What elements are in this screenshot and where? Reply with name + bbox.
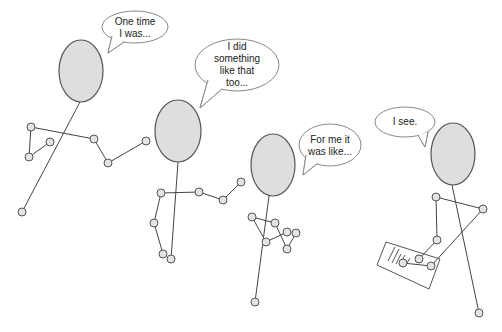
speech-bubble-text: I did something like that too... — [197, 41, 277, 89]
head — [155, 100, 201, 162]
head — [431, 123, 475, 185]
joint — [150, 219, 158, 227]
joint — [251, 298, 259, 306]
body-line — [255, 196, 269, 302]
joint — [433, 236, 441, 244]
joint — [159, 250, 167, 258]
joint — [271, 219, 279, 227]
joint — [475, 309, 483, 317]
head — [59, 40, 103, 102]
limb-line — [31, 127, 94, 139]
figure-4 — [375, 107, 487, 317]
joint — [18, 208, 26, 216]
body-line — [171, 162, 178, 259]
joint — [283, 228, 291, 236]
limb-line — [154, 193, 161, 223]
joint — [195, 188, 203, 196]
joint — [46, 138, 54, 146]
joint — [237, 178, 245, 186]
limb-line — [29, 127, 31, 157]
joint — [479, 205, 487, 213]
limb-line — [108, 141, 146, 163]
joint — [283, 245, 291, 253]
joint — [399, 259, 407, 267]
limb-line — [436, 197, 483, 209]
limb-line — [161, 192, 199, 193]
joint — [157, 189, 165, 197]
joint — [219, 196, 227, 204]
speech-bubble-text: For me it was like... — [300, 134, 360, 158]
joint — [415, 255, 423, 263]
joint — [167, 255, 175, 263]
joint — [248, 213, 256, 221]
limb-line — [436, 197, 437, 240]
joint — [432, 193, 440, 201]
joint — [25, 153, 33, 161]
joint — [292, 229, 300, 237]
joint — [27, 123, 35, 131]
figure-1 — [18, 11, 168, 216]
joint — [262, 238, 270, 246]
limb-line — [154, 223, 163, 254]
joint — [142, 137, 150, 145]
joint — [427, 262, 435, 270]
head — [251, 134, 295, 196]
speech-bubble-text: One time I was... — [103, 16, 167, 40]
joint — [104, 159, 112, 167]
joint — [90, 135, 98, 143]
speech-bubble-text: I see. — [376, 116, 434, 128]
